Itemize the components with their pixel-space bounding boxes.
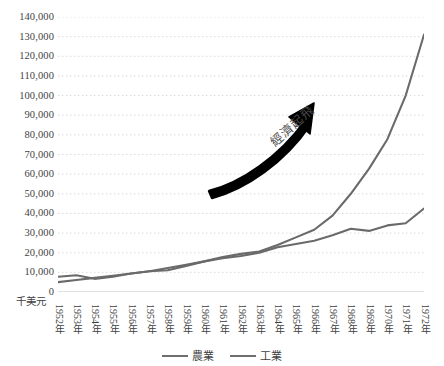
y-axis-unit-caption: 千美元: [6, 296, 56, 308]
y-axis-tick-label: 130,000: [0, 32, 54, 43]
x-axis-tick-label: 1953年: [70, 296, 83, 342]
x-axis-tick-label: 1966年: [308, 296, 321, 342]
line-chart: 140,000130,000120,000110,000100,00090,00…: [0, 0, 444, 366]
x-axis-tick-label: 1957年: [143, 296, 156, 342]
chart-legend: 農業 工業: [0, 347, 444, 365]
y-axis-tick-label: 140,000: [0, 12, 54, 23]
x-axis-tick-label: 1972年: [418, 296, 431, 342]
x-axis-tick-label: 1968年: [344, 296, 357, 342]
x-axis-tick-label: 1963年: [253, 296, 266, 342]
y-axis-tick-label: 100,000: [0, 91, 54, 102]
x-axis-tick-label: 1961年: [216, 296, 229, 342]
legend-entry-industry: 工業: [230, 350, 282, 362]
y-axis-tick-labels: 140,000130,000120,000110,000100,00090,00…: [0, 0, 54, 300]
y-axis-tick-label: 70,000: [0, 150, 54, 161]
plot-svg: [58, 17, 424, 292]
y-axis-tick-label: 120,000: [0, 51, 54, 62]
x-axis-tick-label: 1952年: [52, 296, 65, 342]
x-axis-tick-labels: 1952年1953年1954年1955年1956年1957年1958年1959年…: [58, 296, 424, 344]
series-line: [58, 209, 424, 279]
series-line: [58, 35, 424, 283]
y-axis-tick-label: 90,000: [0, 110, 54, 121]
y-axis-tick-label: 20,000: [0, 248, 54, 259]
x-axis-tick-label: 1960年: [198, 296, 211, 342]
legend-entry-agriculture: 農業: [162, 350, 214, 362]
y-axis-tick-label: 10,000: [0, 267, 54, 278]
y-axis-tick-label: 80,000: [0, 130, 54, 141]
x-axis-tick-label: 1971年: [399, 296, 412, 342]
x-axis-tick-label: 1959年: [180, 296, 193, 342]
x-axis-tick-label: 1967年: [326, 296, 339, 342]
legend-line-swatch-icon: [162, 355, 188, 357]
x-axis-tick-label: 1965年: [289, 296, 302, 342]
x-axis-tick-label: 1962年: [235, 296, 248, 342]
x-axis-tick-label: 1954年: [88, 296, 101, 342]
legend-label-agriculture: 農業: [192, 350, 214, 362]
y-axis-tick-label: 40,000: [0, 208, 54, 219]
plot-area: [58, 17, 424, 292]
x-axis-tick-label: 1969年: [363, 296, 376, 342]
legend-label-industry: 工業: [260, 350, 282, 362]
y-axis-tick-label: 60,000: [0, 169, 54, 180]
y-axis-tick-label: 50,000: [0, 189, 54, 200]
x-axis-tick-label: 1964年: [271, 296, 284, 342]
x-axis-tick-label: 1970年: [381, 296, 394, 342]
x-axis-tick-label: 1958年: [161, 296, 174, 342]
y-axis-tick-label: 110,000: [0, 71, 54, 82]
y-axis-tick-label: 30,000: [0, 228, 54, 239]
x-axis-tick-label: 1955年: [106, 296, 119, 342]
x-axis-tick-label: 1956年: [125, 296, 138, 342]
legend-line-swatch-icon: [230, 355, 256, 357]
